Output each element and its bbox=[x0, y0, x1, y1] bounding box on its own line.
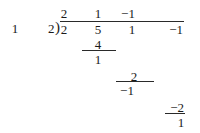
step-2-remainder: −1 bbox=[120, 84, 134, 97]
division-bar bbox=[60, 21, 184, 22]
division-bracket-icon: ) bbox=[55, 20, 60, 35]
quotient-term-2: 1 bbox=[95, 7, 102, 20]
dividend-term-4: −1 bbox=[169, 23, 183, 36]
quotient-term-1: 2 bbox=[61, 7, 68, 20]
dividend-term-3: 1 bbox=[129, 23, 136, 36]
step-3-remainder: 1 bbox=[178, 116, 185, 129]
divisor: 2 bbox=[48, 22, 55, 35]
step-2-bar bbox=[116, 81, 154, 82]
row-label: 1 bbox=[12, 22, 19, 35]
step-1-bar bbox=[82, 50, 116, 51]
dividend-term-2: 5 bbox=[95, 23, 102, 36]
step-1-remainder: 1 bbox=[95, 53, 102, 66]
quotient-term-3: −1 bbox=[121, 7, 135, 20]
dividend-term-1: 2 bbox=[61, 23, 68, 36]
step-3-bar bbox=[165, 113, 185, 114]
